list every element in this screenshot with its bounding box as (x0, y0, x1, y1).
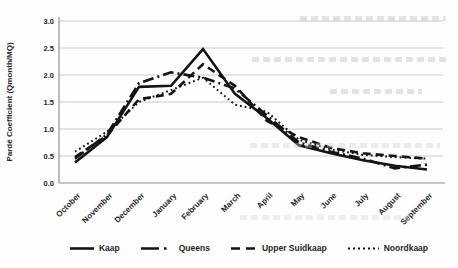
y-tick-label: 1.0 (44, 125, 54, 134)
legend-label: Queens (179, 243, 210, 253)
x-tick-label: January (150, 191, 178, 219)
x-tick-label: August (377, 191, 403, 217)
y-tick-label: 3.0 (44, 17, 54, 26)
scanned-chart-page: 0.00.51.01.52.02.53.0OctoberNovemberDece… (0, 0, 458, 268)
x-tick-label: June (319, 191, 339, 211)
x-tick-label: February (180, 191, 211, 222)
legend-item-queens: Queens (141, 243, 210, 253)
x-tick-label: November (80, 191, 114, 225)
legend-line-sample (348, 245, 379, 252)
series-line-kaap (75, 49, 427, 169)
x-tick-label: October (54, 191, 82, 219)
series-line-upper-suidkaap (75, 64, 427, 159)
legend-line-sample (141, 245, 174, 252)
x-tick-label: December (113, 191, 147, 225)
series-line-noordkaap (75, 78, 427, 159)
x-tick-label: May (289, 191, 307, 209)
y-tick-label: 1.5 (44, 98, 54, 107)
legend-item-kaap: Kaap (70, 243, 120, 253)
legend-line-sample (70, 245, 94, 252)
legend-item-upper-suidkaap: Upper Suidkaap (231, 243, 327, 253)
y-tick-label: 2.5 (44, 44, 54, 53)
series-line-queens (75, 72, 427, 168)
y-axis-title: Pardé Coefficient (Qmonth/MQ) (5, 42, 14, 161)
legend-item-noordkaap: Noordkaap (348, 243, 428, 253)
x-tick-label: July (353, 191, 371, 209)
y-tick-label: 0.5 (44, 152, 54, 161)
x-tick-label: September (399, 191, 435, 227)
chart-legend: KaapQueensUpper SuidkaapNoordkaap (48, 238, 450, 258)
legend-label: Kaap (99, 243, 120, 253)
legend-label: Upper Suidkaap (262, 243, 327, 253)
y-tick-label: 2.0 (44, 71, 54, 80)
chart-canvas: 0.00.51.01.52.02.53.0OctoberNovemberDece… (0, 0, 458, 268)
legend-line-sample (231, 245, 257, 252)
x-tick-label: April (255, 191, 274, 210)
legend-label: Noordkaap (384, 243, 428, 253)
y-tick-label: 0.0 (44, 179, 54, 188)
x-tick-label: March (219, 191, 242, 214)
